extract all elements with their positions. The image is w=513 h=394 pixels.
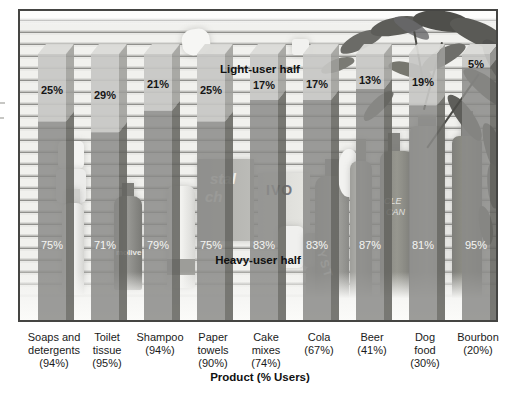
light-user-value-label: 21% xyxy=(147,78,169,90)
bar-heavy-front-face xyxy=(303,100,331,322)
light-user-value-label: 25% xyxy=(41,84,63,96)
light-user-value-label: 17% xyxy=(253,79,275,91)
heavy-user-value-label: 75% xyxy=(41,239,63,251)
bar-light-side-face xyxy=(172,44,180,111)
bar-heavy-front-face xyxy=(38,122,66,323)
bar-heavy-side-face xyxy=(437,95,445,322)
stacked-bar-chart: 25%75%29%71%21%79%25%75%17%83%17%83%13%8… xyxy=(20,11,498,322)
category-label: Cola (67%) xyxy=(304,331,333,357)
light-user-value-label: 17% xyxy=(306,78,328,90)
bar-light-side-face xyxy=(437,44,445,105)
bar-heavy-side-face xyxy=(172,101,180,322)
category-label: Shampoo (94%) xyxy=(136,331,183,357)
heavy-user-value-label: 81% xyxy=(412,239,434,251)
heavy-user-value-label: 83% xyxy=(306,239,328,251)
print-artifact xyxy=(0,117,4,119)
bar-heavy-side-face xyxy=(66,112,74,323)
category-label: Bourbon (20%) xyxy=(457,331,499,357)
bar-heavy-front-face xyxy=(250,100,278,322)
x-axis-title: Product (% Users) xyxy=(210,371,310,383)
category-label: Beer (41%) xyxy=(357,331,386,357)
heavy-user-value-label: 71% xyxy=(94,239,116,251)
category-label: Cake mixes (74%) xyxy=(251,331,280,370)
light-user-value-label: 13% xyxy=(359,74,381,86)
bar-heavy-side-face xyxy=(384,79,392,322)
bar-heavy-front-face xyxy=(144,111,172,322)
bar-heavy-side-face xyxy=(490,58,498,323)
bar-heavy-front-face xyxy=(356,89,384,322)
annotation-light-user-half: Light-user half xyxy=(220,63,300,75)
category-label: Paper towels (90%) xyxy=(197,331,228,370)
bar-heavy-side-face xyxy=(331,90,339,322)
bar-light-front-face xyxy=(250,54,278,100)
bar-heavy-front-face xyxy=(91,132,119,322)
bar-heavy-front-face xyxy=(197,122,225,323)
bar-heavy-side-face xyxy=(278,90,286,322)
heavy-user-value-label: 79% xyxy=(147,239,169,251)
bar-light-side-face xyxy=(119,44,127,132)
category-label: Dog food (30%) xyxy=(410,331,439,370)
annotation-heavy-user-half: Heavy-user half xyxy=(215,254,301,266)
bar-light-side-face xyxy=(66,44,74,122)
bar-heavy-side-face xyxy=(225,112,233,323)
heavy-user-value-label: 83% xyxy=(253,239,275,251)
light-user-value-label: 25% xyxy=(200,84,222,96)
print-artifact xyxy=(0,102,5,104)
bar-heavy-front-face xyxy=(462,68,490,323)
bar-heavy-front-face xyxy=(409,105,437,322)
heavy-user-value-label: 95% xyxy=(465,239,487,251)
bar-heavy-side-face xyxy=(119,122,127,322)
bar-light-front-face xyxy=(303,54,331,100)
heavy-user-value-label: 87% xyxy=(359,239,381,251)
light-user-value-label: 29% xyxy=(94,89,116,101)
category-label: Soaps and detergents (94%) xyxy=(28,331,81,370)
figure-canvas: molive stal ch IVO RYST xyxy=(0,0,513,394)
light-user-value-label: 19% xyxy=(412,76,434,88)
category-label: Toilet tissue (95%) xyxy=(92,331,121,370)
category-axis-labels: Soaps and detergents (94%)Toilet tissue … xyxy=(0,331,513,373)
photo-background-frame: molive stal ch IVO RYST xyxy=(18,9,498,322)
heavy-user-value-label: 75% xyxy=(200,239,222,251)
light-user-value-label: 5% xyxy=(468,58,484,70)
bar-light-side-face xyxy=(225,44,233,122)
